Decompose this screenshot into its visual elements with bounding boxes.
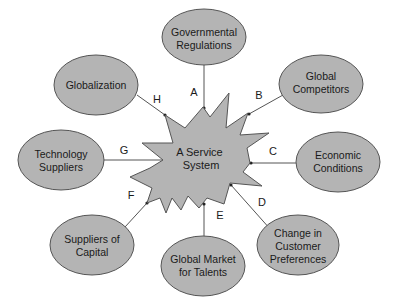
node-economic-conditions: EconomicConditions: [296, 132, 380, 192]
edge-b: [249, 95, 283, 114]
service-system-diagram: A Service System GovernmentalRegulations…: [0, 0, 395, 304]
svg-text:Global Marketfor Talents: Global Marketfor Talents: [170, 253, 235, 278]
edge-label-a: A: [190, 86, 198, 98]
node-global-competitors: GlobalCompetitors: [279, 55, 363, 113]
svg-text:TechnologySuppliers: TechnologySuppliers: [34, 148, 88, 173]
edge-f: [125, 203, 147, 227]
svg-text:Globalization: Globalization: [66, 79, 127, 91]
center-label: A Service System: [176, 146, 226, 171]
edge-label-d: D: [258, 196, 266, 208]
svg-text:EconomicConditions: EconomicConditions: [313, 149, 363, 174]
node-suppliers-of-capital: Suppliers ofCapital: [50, 215, 134, 275]
edge-label-h: H: [153, 93, 161, 105]
edge-label-f: F: [128, 189, 135, 201]
node-globalization: Globalization: [54, 55, 138, 115]
edge-label-c: C: [269, 145, 277, 157]
edge-label-e: E: [216, 209, 223, 221]
edge-label-g: G: [120, 144, 129, 156]
svg-text:GovernmentalRegulations: GovernmentalRegulations: [171, 26, 237, 51]
node-change-in-customer-preferences: Change inCustomerPreferences: [257, 215, 339, 275]
node-technology-suppliers: TechnologySuppliers: [18, 130, 104, 190]
node-governmental-regulations: GovernmentalRegulations: [162, 9, 246, 65]
svg-text:Change inCustomerPreferences: Change inCustomerPreferences: [270, 227, 327, 265]
edge-label-b: B: [255, 89, 262, 101]
node-global-market-for-talents: Global Marketfor Talents: [161, 236, 245, 296]
